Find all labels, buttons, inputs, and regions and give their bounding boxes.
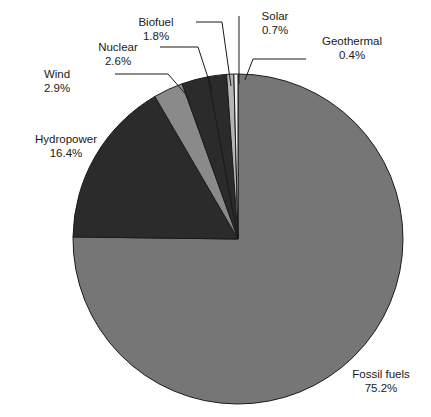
pie-label-solar-value: 0.7% bbox=[243, 24, 307, 38]
pie-label-solar: Solar 0.7% bbox=[243, 10, 307, 37]
pie-label-biofuel-name: Biofuel bbox=[117, 16, 195, 30]
pie-label-hydropower-value: 16.4% bbox=[14, 147, 118, 161]
pie-label-fossil-fuels-value: 75.2% bbox=[339, 382, 423, 396]
pie-label-biofuel-value: 1.8% bbox=[117, 30, 195, 44]
pie-label-fossil-fuels: Fossil fuels 75.2% bbox=[339, 368, 423, 395]
pie-label-nuclear-name: Nuclear bbox=[79, 41, 157, 55]
pie-slice-group bbox=[73, 74, 403, 404]
pie-label-fossil-fuels-name: Fossil fuels bbox=[339, 368, 423, 382]
pie-label-solar-name: Solar bbox=[243, 10, 307, 24]
pie-label-geothermal-name: Geothermal bbox=[310, 35, 394, 49]
pie-label-geothermal-value: 0.4% bbox=[310, 49, 394, 63]
pie-label-wind: Wind 2.9% bbox=[18, 68, 96, 95]
pie-label-geothermal: Geothermal 0.4% bbox=[310, 35, 394, 62]
pie-label-hydropower-name: Hydropower bbox=[14, 133, 118, 147]
pie-label-wind-name: Wind bbox=[18, 68, 96, 82]
pie-label-hydropower: Hydropower 16.4% bbox=[14, 133, 118, 160]
pie-label-nuclear: Nuclear 2.6% bbox=[79, 41, 157, 68]
pie-label-wind-value: 2.9% bbox=[18, 82, 96, 96]
pie-chart-canvas bbox=[0, 0, 431, 417]
pie-chart: Hydropower 16.4% Wind 2.9% Nuclear 2.6% … bbox=[0, 0, 431, 417]
pie-label-nuclear-value: 2.6% bbox=[79, 55, 157, 69]
pie-label-biofuel: Biofuel 1.8% bbox=[117, 16, 195, 43]
